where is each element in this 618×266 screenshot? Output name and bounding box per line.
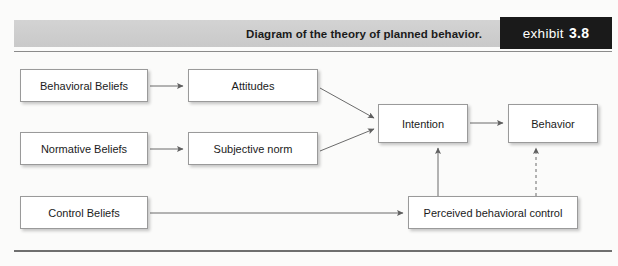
divider-bottom — [14, 250, 612, 252]
node-intention: Intention — [378, 104, 468, 143]
exhibit-number: 3.8 — [569, 25, 589, 41]
exhibit-word: exhibit — [523, 26, 564, 41]
node-subjective-norm: Subjective norm — [188, 132, 318, 165]
edge-subjective-norm-to-intention — [320, 129, 374, 151]
exhibit-title: Diagram of the theory of planned behavio… — [230, 20, 492, 47]
exhibit-label-box: exhibit 3.8 — [500, 17, 612, 49]
divider-top — [14, 51, 612, 52]
edge-attitudes-to-intention — [320, 88, 374, 118]
exhibit-figure: Diagram of the theory of planned behavio… — [0, 0, 618, 266]
node-behavior: Behavior — [508, 104, 598, 143]
node-perceived-behavioral-control: Perceived behavioral control — [408, 196, 578, 229]
node-control-beliefs: Control Beliefs — [20, 196, 148, 229]
node-behavioral-beliefs: Behavioral Beliefs — [20, 69, 148, 102]
node-normative-beliefs: Normative Beliefs — [20, 132, 148, 165]
node-attitudes: Attitudes — [188, 69, 318, 102]
